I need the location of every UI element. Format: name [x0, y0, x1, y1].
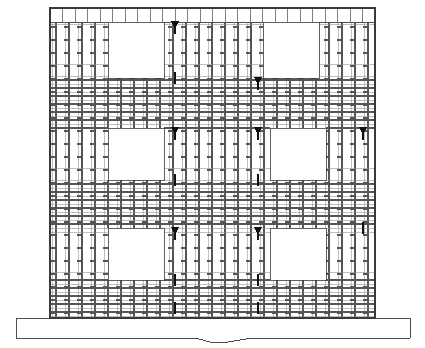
splice-marker-stem [362, 133, 364, 140]
splice-marker [257, 274, 260, 286]
splice-marker [174, 174, 177, 186]
drawing-canvas [0, 0, 425, 348]
splice-marker [257, 174, 260, 186]
opening-r1-c1-fill [108, 22, 164, 78]
splice-marker [362, 222, 365, 234]
splice-marker [174, 302, 177, 314]
splice-marker-stem [257, 233, 259, 240]
foundation-footing [16, 318, 410, 342]
structural-elevation-drawing [0, 0, 425, 348]
opening-r2-c1-fill [108, 128, 164, 180]
splice-marker-stem [174, 233, 176, 240]
splice-marker-stem [174, 27, 176, 34]
splice-marker [257, 302, 260, 314]
splice-marker [174, 274, 177, 286]
opening-r2-c2-fill [270, 128, 326, 180]
opening-r3-c1-fill [108, 228, 164, 280]
opening-r3-c2-fill [270, 228, 326, 280]
foundation-outline [16, 318, 410, 342]
splice-marker [174, 72, 177, 84]
splice-marker-stem [174, 133, 176, 140]
splice-marker-stem [257, 83, 259, 90]
splice-marker-stem [257, 133, 259, 140]
opening-r1-c2-fill [263, 22, 319, 78]
